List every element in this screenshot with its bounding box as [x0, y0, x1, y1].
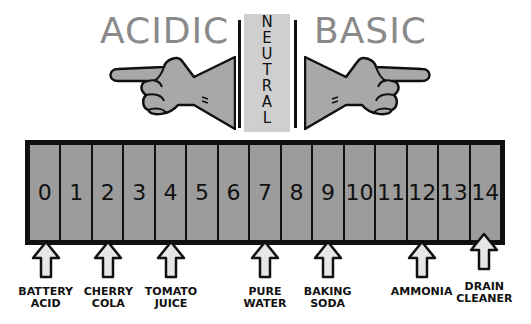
- example-label: BAKINGSODA: [288, 286, 368, 310]
- ph-cell-7: 7: [250, 145, 281, 240]
- neutral-letter: R: [244, 78, 290, 94]
- up-arrow-icon: [31, 240, 61, 280]
- up-arrow-icon: [250, 240, 280, 280]
- ph-cell-13: 13: [439, 145, 470, 240]
- neutral-letter: L: [244, 110, 290, 126]
- ph-cell-2: 2: [93, 145, 124, 240]
- neutral-label: NEUTRAL: [244, 14, 290, 126]
- pointing-hand-right-icon: [304, 55, 432, 131]
- neutral-letter: U: [244, 46, 290, 62]
- neutral-letter: E: [244, 30, 290, 46]
- ph-cell-3: 3: [124, 145, 155, 240]
- ph-cell-14: 14: [471, 145, 500, 240]
- basic-heading: BASIC: [314, 10, 427, 51]
- ph-cell-0: 0: [30, 145, 61, 240]
- ph-cell-12: 12: [408, 145, 439, 240]
- up-arrow-icon: [313, 240, 343, 280]
- ph-scale-bar: 01234567891011121314: [25, 140, 505, 245]
- neutral-letter: N: [244, 14, 290, 30]
- neutral-letter: A: [244, 94, 290, 110]
- ph-cell-1: 1: [61, 145, 92, 240]
- up-arrow-icon: [93, 240, 123, 280]
- divider-left: [238, 20, 241, 128]
- up-arrow-icon: [469, 232, 499, 272]
- ph-cell-11: 11: [376, 145, 407, 240]
- example-label: TOMATOJUICE: [131, 286, 211, 310]
- up-arrow-icon: [156, 240, 186, 280]
- example-label: DRAINCLEANER: [444, 281, 524, 305]
- divider-right: [294, 20, 297, 128]
- ph-cell-4: 4: [156, 145, 187, 240]
- ph-cell-9: 9: [313, 145, 344, 240]
- ph-cell-6: 6: [219, 145, 250, 240]
- neutral-letter: T: [244, 62, 290, 78]
- pointing-hand-left-icon: [108, 55, 236, 131]
- ph-cell-5: 5: [187, 145, 218, 240]
- ph-cell-8: 8: [282, 145, 313, 240]
- ph-cell-10: 10: [345, 145, 376, 240]
- acidic-heading: ACIDIC: [100, 10, 229, 51]
- up-arrow-icon: [407, 240, 437, 280]
